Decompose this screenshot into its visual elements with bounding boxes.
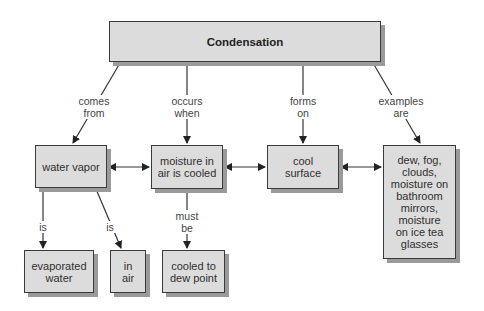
node-in-air: in air [110,250,146,293]
node-in-air-label: in air [122,260,134,284]
node-water-vapor: water vapor [35,145,107,188]
node-condensation-label: Condensation [207,36,284,48]
link-label-must-be: must be [172,210,202,234]
node-examples-label: dew, fog, clouds, moisture on bathroom m… [391,154,448,250]
link-label-forms-on: forms on [286,95,320,119]
node-cool-surface-label: cool surface [285,155,321,179]
node-cool-surface: cool surface [267,145,339,189]
node-water-vapor-label: water vapor [42,161,99,173]
link-label-is-2: is [103,221,117,233]
link-label-is-1: is [36,221,50,233]
node-moisture-cooled-label: moisture in air is cooled [158,155,217,179]
node-cooled-dew-point-label: cooled to dew point [170,260,217,284]
node-evaporated-water-label: evaporated water [31,260,86,284]
link-label-examples-are: examples are [374,95,428,119]
node-moisture-cooled: moisture in air is cooled [151,145,223,189]
link-label-comes-from: comes from [74,95,114,119]
node-cooled-dew-point: cooled to dew point [162,250,225,293]
node-condensation: Condensation [109,21,381,62]
node-examples: dew, fog, clouds, moisture on bathroom m… [383,145,456,259]
link-label-occurs-when: occurs when [166,95,208,119]
node-evaporated-water: evaporated water [24,250,94,293]
